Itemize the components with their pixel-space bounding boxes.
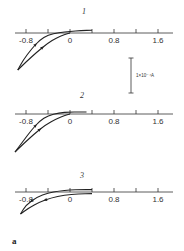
curve-reverse-3 [21,190,93,214]
panel-label: a [12,236,17,246]
x-tick-label: -0.8 [19,36,33,45]
x-tick-label: 0.8 [108,36,120,45]
scale-bar-label: 1×10⁻⁴A [136,73,154,78]
x-tick-label: 0.8 [108,195,120,204]
x-tick-label: 0.8 [108,117,120,126]
plot-2: -0.800.81.62 [15,91,173,152]
figure: -0.800.81.61-0.800.81.62-0.800.81.63 1×1… [0,0,184,251]
direction-arrow [44,198,48,201]
x-tick-label: -0.8 [19,117,33,126]
plot-3: -0.800.81.63 [15,171,173,214]
x-tick-label: 0 [68,117,73,126]
curve-label-2: 2 [80,91,84,100]
x-tick-label: -0.8 [19,195,33,204]
x-tick-label: 1.6 [152,195,164,204]
x-tick-label: 0 [68,195,73,204]
curve-label-1: 1 [82,7,86,16]
plot-1: -0.800.81.61 [15,7,173,70]
x-tick-label: 0 [68,36,73,45]
x-tick-label: 1.6 [152,117,164,126]
x-tick-label: 1.6 [152,36,164,45]
curve-label-3: 3 [79,171,84,180]
scale-bar: 1×10⁻⁴A [129,58,155,93]
